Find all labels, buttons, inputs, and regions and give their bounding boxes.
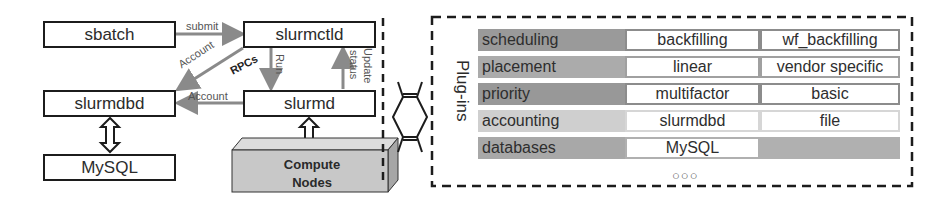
plugins-title: Plug-ins: [452, 60, 472, 121]
slurmctld-label: slurmctld: [275, 25, 343, 45]
plugin-row-databases: databases MySQL: [478, 137, 900, 159]
slurmd-box: slurmd: [243, 90, 376, 117]
plugin-row-priority: priority multifactor basic: [478, 83, 900, 105]
plugin-category: accounting: [478, 110, 625, 132]
run-label: Run: [274, 54, 286, 74]
plugin-option: backfilling: [625, 29, 760, 51]
slurmdbd-label: slurmdbd: [75, 94, 145, 114]
sbatch-label: sbatch: [84, 25, 134, 45]
mysql-box: MySQL: [43, 154, 176, 181]
sbatch-box: sbatch: [43, 21, 176, 48]
slurmdbd-box: slurmdbd: [43, 90, 176, 117]
double-arrow-slurmdbd-mysql: [101, 118, 119, 152]
plugin-category: scheduling: [478, 29, 625, 51]
plugin-category: priority: [478, 83, 625, 105]
plugin-option: file: [760, 110, 900, 132]
compute-label-line2: Nodes: [232, 174, 392, 192]
plugin-option: vendor specific: [760, 56, 900, 78]
plugin-option: basic: [760, 83, 900, 105]
plugin-option-empty: [760, 137, 900, 159]
more-plugins-ellipsis: ○○○: [672, 168, 699, 183]
plugin-row-accounting: accounting slurmdbd file: [478, 110, 900, 132]
account-horizontal-label: Account: [188, 90, 228, 102]
plugin-option: wf_backfilling: [760, 29, 900, 51]
update-label: Update: [362, 48, 374, 83]
plugin-row-scheduling: scheduling backfilling wf_backfilling: [478, 29, 900, 51]
slurmctld-box: slurmctld: [243, 21, 376, 48]
plugin-category: databases: [478, 137, 625, 159]
plugin-option: linear: [625, 56, 760, 78]
slurmd-label: slurmd: [284, 94, 335, 114]
mysql-label: MySQL: [81, 158, 138, 178]
plugin-option: slurmdbd: [625, 110, 760, 132]
submit-label: submit: [186, 20, 218, 32]
compute-label-line1: Compute: [232, 156, 392, 174]
plugin-category: placement: [478, 56, 625, 78]
status-label: status: [348, 50, 360, 79]
compute-nodes-label: Compute Nodes: [232, 156, 392, 192]
plugin-option: MySQL: [625, 137, 760, 159]
plugins-table: scheduling backfilling wf_backfilling pl…: [478, 29, 900, 164]
plugin-option: multifactor: [625, 83, 760, 105]
plugin-row-placement: placement linear vendor specific: [478, 56, 900, 78]
